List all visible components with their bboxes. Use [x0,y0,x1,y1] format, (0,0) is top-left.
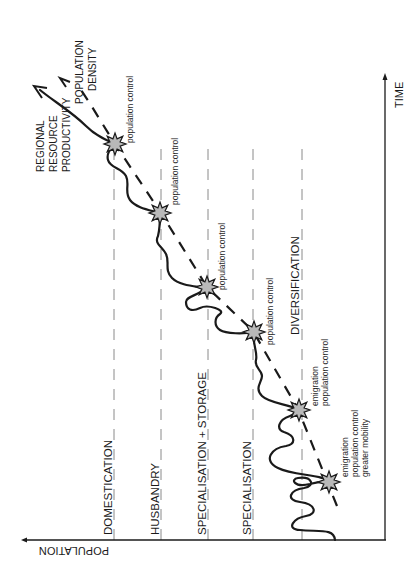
stage-label-specialisation: SPECIALISATION [241,441,253,535]
annotation-line: population control [265,278,275,345]
star-icon [288,399,310,421]
annotation-crisis-3: population control [265,278,275,345]
population-axis-label: POPULATION [39,545,109,557]
stage-label-specialisation-storage: SPECIALISATION + STORAGE [196,372,208,535]
stage-label-husbandry: HUSBANDRY [149,463,161,535]
stage-label-diversification: DIVERSIFICATION [289,236,301,335]
annotation-line: population control [125,76,135,143]
annotation-crisis-2: emigration population control [310,339,330,406]
star-icon [104,133,126,155]
star-icon [149,202,171,224]
time-axis-arrow [383,73,388,80]
annotation-crisis-4: population control [217,223,227,290]
time-axis-label: TIME [393,82,404,108]
annotation-line: population control [217,223,227,290]
crisis-annotations: emigration population control greater mo… [125,76,370,477]
annotation-line: emigration [340,437,350,477]
annotation-crisis-1: emigration population control greater mo… [340,410,370,477]
population-axis-arrow [21,538,27,543]
annotation-line: population control [350,410,360,477]
label-line: RESOURCE [48,115,59,172]
annotation-crisis-6: population control [125,76,135,143]
annotation-line: population control [320,339,330,406]
label-line: PRODUCTIVITY [61,97,72,172]
star-icon [243,321,265,343]
label-line: REGIONAL [35,120,46,172]
annotation-line: emigration [310,366,320,406]
star-icon [318,471,340,493]
label-line: POPULATION [74,40,85,104]
stage-label-domestication: DOMESTICATION [102,440,114,535]
population-density-arrow [60,78,70,87]
cultural-evolution-diagram: DIVERSIFICATION SPECIALISATION SPECIALIS… [0,0,404,585]
resource-productivity-label: REGIONAL RESOURCE PRODUCTIVITY [35,97,72,172]
population-density-label: POPULATION DENSITY [74,40,98,104]
label-line: DENSITY [87,47,98,91]
annotation-line: population control [170,138,180,205]
resource-productivity-arrow [34,86,47,98]
annotation-crisis-5: population control [170,138,180,205]
star-icon [196,276,218,298]
annotation-line: greater mobility [360,418,370,477]
